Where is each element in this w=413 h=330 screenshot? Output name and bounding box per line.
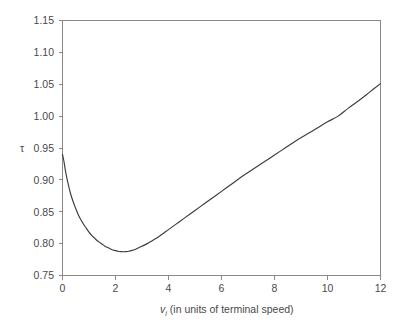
x-tick-label: 2 [113,282,119,294]
x-tick-label: 0 [60,282,66,294]
y-tick-label: 0.75 [34,269,55,281]
x-tick-label: 8 [272,282,278,294]
y-tick-label: 1.05 [34,78,55,90]
figure-background [0,0,413,330]
chart-figure: 1.15 1.10 1.05 1.00 0.95 0.90 0.85 0.80 … [0,0,413,330]
x-tick-label: 12 [375,282,387,294]
x-tick-label: 10 [322,282,334,294]
x-tick-label: 4 [166,282,172,294]
y-tick-label: 1.00 [34,110,55,122]
y-tick-label: 1.10 [34,46,55,58]
y-tick-label: 0.90 [34,174,55,186]
y-axis-tick-labels: 1.15 1.10 1.05 1.00 0.95 0.90 0.85 0.80 … [34,14,55,281]
y-tick-label: 0.85 [34,206,55,218]
x-tick-label: 6 [219,282,225,294]
line-chart: 1.15 1.10 1.05 1.00 0.95 0.90 0.85 0.80 … [0,0,413,330]
x-axis-title-rest: (in units of terminal speed) [167,303,294,315]
y-tick-label: 0.95 [34,142,55,154]
y-tick-label: 0.80 [34,237,55,249]
y-tick-label: 1.15 [34,14,55,26]
